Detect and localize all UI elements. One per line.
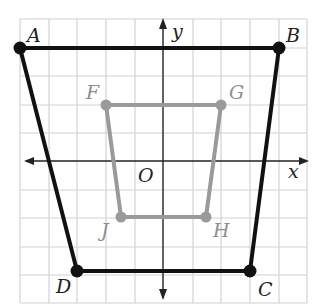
label-j: J (97, 219, 110, 241)
label-g: G (229, 81, 244, 103)
vertex-g (216, 100, 227, 111)
vertex-a (14, 42, 27, 55)
label-h: H (212, 219, 230, 241)
x-axis-label: x (288, 160, 299, 182)
y-axis-down-arrow-icon (159, 289, 167, 300)
vertex-h (201, 212, 212, 223)
vertex-c (244, 265, 257, 278)
vertex-f (101, 100, 112, 111)
label-b: B (285, 24, 300, 46)
vertex-b (273, 42, 286, 55)
vertex-j (116, 212, 127, 223)
label-c: C (258, 278, 273, 300)
x-axis-left-arrow-icon (24, 157, 34, 165)
coordinate-plane-diagram: A B C D F G H J O x y (0, 0, 323, 306)
label-d: D (55, 275, 71, 297)
quadrilateral-abcd (14, 42, 286, 278)
y-axis-label: y (171, 20, 183, 42)
origin-label: O (138, 164, 154, 186)
vertex-d (71, 265, 84, 278)
label-a: A (25, 24, 41, 46)
label-f: F (85, 81, 100, 103)
y-axis-up-arrow-icon (159, 18, 167, 29)
